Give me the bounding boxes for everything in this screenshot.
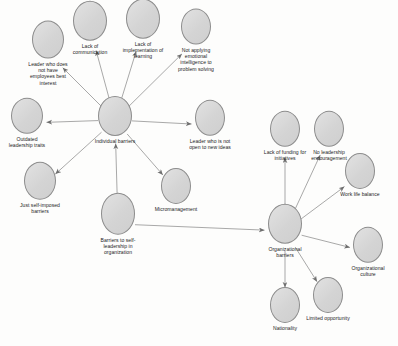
node-nationality[interactable]: Nationality [254, 287, 316, 331]
node-leader-not-open[interactable]: Leader who is not open to new ideas [179, 100, 241, 150]
node-label-organizational: Organizational barriers [254, 246, 316, 258]
node-shape-nationality [270, 287, 300, 323]
node-shape-limited-opportunity [313, 277, 343, 313]
node-shape-self-imposed [24, 162, 56, 200]
node-root[interactable]: Barriers to self- leadership in organiza… [87, 193, 149, 256]
node-shape-micromanagement [161, 168, 191, 204]
node-shape-leader-not-open [195, 100, 225, 136]
node-label-nationality: Nationality [254, 325, 316, 331]
node-organizational-culture[interactable]: Organizational culture [337, 227, 398, 277]
node-label-leader-not-open: Leader who is not open to new ideas [179, 138, 241, 150]
node-shape-lack-implementation [126, 0, 160, 39]
node-leader-no-interest[interactable]: Leader who does not have employees best … [17, 21, 79, 86]
node-label-leader-no-interest: Leader who does not have employees best … [17, 61, 79, 86]
node-organizational[interactable]: Organizational barriers [254, 204, 316, 258]
node-shape-not-applying-ei [181, 9, 211, 45]
node-work-life-balance[interactable]: Work life balance [329, 153, 391, 197]
node-shape-organizational [268, 204, 302, 244]
node-shape-root [101, 193, 135, 235]
node-label-work-life-balance: Work life balance [329, 191, 391, 197]
node-label-self-imposed: Just self-imposed barriers [9, 202, 71, 214]
node-label-micromanagement: Micromanagement [145, 206, 207, 212]
node-outdated-traits[interactable]: Outdated leadership traits [0, 98, 58, 148]
node-shape-outdated-traits [11, 98, 43, 134]
node-shape-individual [98, 96, 132, 136]
node-label-individual: Individual barriers [84, 138, 146, 144]
node-label-outdated-traits: Outdated leadership traits [0, 136, 58, 148]
node-self-imposed[interactable]: Just self-imposed barriers [9, 162, 71, 214]
node-shape-leader-no-interest [32, 21, 64, 59]
node-shape-no-leadership-encouragement [314, 111, 344, 147]
node-individual[interactable]: Individual barriers [84, 96, 146, 144]
edge-individual-to-lack-communication [96, 50, 110, 101]
node-shape-organizational-culture [353, 227, 383, 263]
node-label-root: Barriers to self- leadership in organiza… [87, 237, 149, 256]
node-label-organizational-culture: Organizational culture [337, 265, 398, 277]
node-label-not-applying-ei: Not applying emotional intelligence to p… [165, 47, 227, 72]
node-micromanagement[interactable]: Micromanagement [145, 168, 207, 212]
node-shape-work-life-balance [345, 153, 375, 189]
concept-map-canvas: Barriers to self- leadership in organiza… [0, 0, 398, 346]
node-not-applying-ei[interactable]: Not applying emotional intelligence to p… [165, 9, 227, 72]
edge-root-to-organizational [135, 225, 265, 230]
node-shape-lack-funding [270, 111, 300, 147]
